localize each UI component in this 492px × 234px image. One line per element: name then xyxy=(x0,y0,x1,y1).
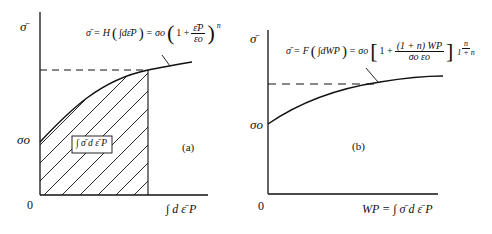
eq-b-frac-den: σo εo xyxy=(407,52,432,62)
eq-b-exponent: n 1 + n xyxy=(455,40,476,57)
equation-b: σ̄ = F ( ∫dWP ) = σo [ 1 + (1 + n) WP σo… xyxy=(286,40,477,62)
area-label-a: ∫ σ̄ d ε̄ P xyxy=(76,139,107,149)
origin-label-b: 0 xyxy=(258,200,264,212)
eq-b-frac-num: (1 + n) WP xyxy=(395,41,444,52)
eq-a-integral: ∫dε̄P xyxy=(119,28,137,38)
y-tick-sigma0-b: σo xyxy=(250,118,263,131)
equation-a: σ̄ = H ( ∫dε̄P ) = σo ( 1 + ε̄P εo ) n xyxy=(86,22,221,44)
diagram-canvas xyxy=(0,0,492,234)
equation-pointer-b xyxy=(366,68,378,82)
panel-label-b: (b) xyxy=(352,141,365,152)
x-axis-label-a: ∫ d ε̄ P xyxy=(166,203,196,215)
panel-label-a: (a) xyxy=(182,142,194,153)
eq-a-fraction: ε̄P εo xyxy=(191,23,205,44)
eq-a-inner: 1 + xyxy=(176,28,189,38)
eq-b-mid: = σo xyxy=(349,46,368,56)
eq-a-lhs: σ̄ = H xyxy=(86,28,110,38)
hardening-curve-a xyxy=(40,62,192,142)
eq-a-exponent: n xyxy=(217,22,221,30)
hatched-area-a xyxy=(0,35,294,195)
eq-b-integral: ∫dWP xyxy=(318,46,340,56)
eq-b-inner: 1 + xyxy=(380,46,393,56)
x-axis-label-b: WP = ∫ σ̄ d ε̄ P xyxy=(362,203,432,215)
hardening-curve-b xyxy=(268,76,443,124)
y-axis-label-a: σ̄ xyxy=(20,20,26,33)
y-axis-label-b: σ̄ xyxy=(250,32,256,45)
eq-b-fraction: (1 + n) WP σo εo xyxy=(395,41,444,62)
eq-a-mid: = σo xyxy=(146,28,165,38)
eq-b-lhs: σ̄ = F xyxy=(286,46,309,56)
equation-pointer-a xyxy=(162,55,170,66)
eq-a-frac-num: ε̄P xyxy=(191,23,205,34)
origin-label-a: 0 xyxy=(27,199,33,211)
eq-a-frac-den: εo xyxy=(192,34,205,44)
eq-b-exp-den: 1 + n xyxy=(455,49,476,57)
y-tick-sigma0-a: σo xyxy=(17,133,30,146)
